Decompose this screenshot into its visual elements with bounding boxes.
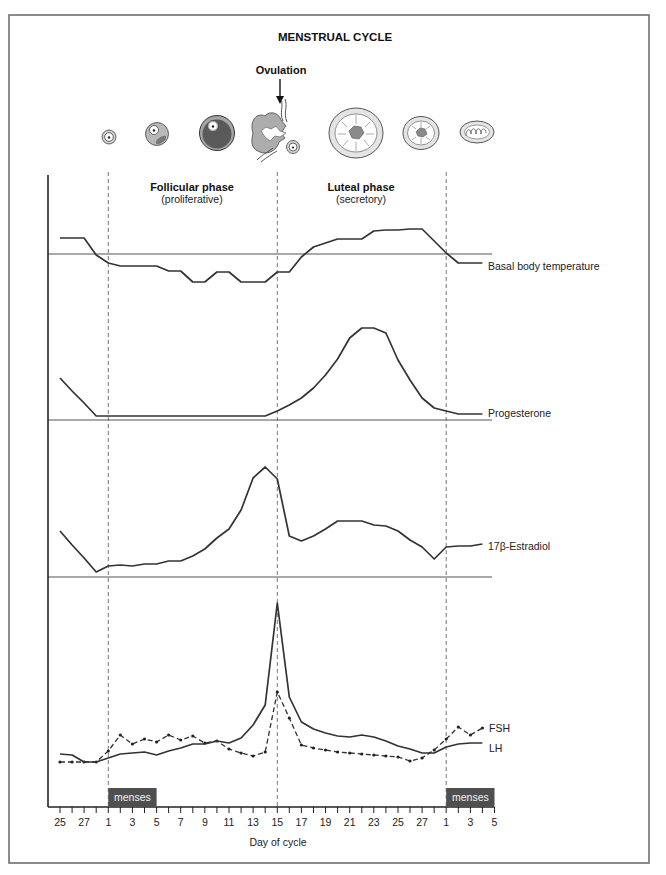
x-tick-label: 9 <box>202 816 208 828</box>
fsh-point <box>360 752 363 755</box>
fsh-point <box>227 747 230 750</box>
fsh-point <box>252 754 255 757</box>
fsh-point <box>324 748 327 751</box>
ovulation-label: Ovulation <box>256 64 307 76</box>
ruptured-follicle-oocyte-icon <box>252 99 300 162</box>
x-tick-label: 25 <box>54 816 66 828</box>
fsh-point <box>433 748 436 751</box>
regressing-corpus-luteum-icon <box>403 117 439 150</box>
x-tick-label: 25 <box>392 816 404 828</box>
follicular-phase-label: Follicular phase <box>150 181 234 193</box>
x-tick-label: 3 <box>129 816 135 828</box>
fsh-point <box>143 737 146 740</box>
e2-line <box>60 467 482 572</box>
fsh-point <box>71 760 74 763</box>
series-layer <box>58 229 484 764</box>
x-tick-label: 13 <box>247 816 259 828</box>
x-tick-label: 21 <box>344 816 356 828</box>
fsh-point <box>384 754 387 757</box>
x-tick-label: 15 <box>271 816 283 828</box>
fsh-label: FSH <box>489 722 510 734</box>
bbt-line <box>60 229 482 282</box>
estradiol-label: 17β-Estradiol <box>488 540 550 552</box>
x-tick-label: 27 <box>78 816 90 828</box>
fsh-point <box>240 751 243 754</box>
fsh-point <box>312 746 315 749</box>
fsh-point <box>300 743 303 746</box>
antral-follicle-icon <box>200 116 235 151</box>
menses-bar: menses <box>446 788 494 807</box>
luteal-phase-subtitle: (secretory) <box>336 193 386 205</box>
x-axis-ticks: 252713579111315171921232527135 <box>54 807 497 828</box>
x-tick-label: 19 <box>320 816 332 828</box>
fsh-point <box>421 756 424 759</box>
fsh-point <box>58 760 61 763</box>
corpus-albicans-icon <box>460 121 494 143</box>
fsh-point <box>348 751 351 754</box>
fsh-point <box>481 726 484 729</box>
x-tick-label: 3 <box>467 816 473 828</box>
lh-line <box>60 603 482 762</box>
x-tick-label: 5 <box>492 816 498 828</box>
prog-line <box>60 328 482 416</box>
fsh-point <box>408 759 411 762</box>
x-tick-label: 1 <box>105 816 111 828</box>
menses-bar: menses <box>108 788 156 807</box>
progesterone-label: Progesterone <box>488 407 551 419</box>
x-tick-label: 23 <box>368 816 380 828</box>
fsh-point <box>119 733 122 736</box>
x-tick-label: 27 <box>416 816 428 828</box>
fsh-point <box>276 690 279 693</box>
x-tick-label: 7 <box>178 816 184 828</box>
x-tick-label: 5 <box>154 816 160 828</box>
x-tick-label: 17 <box>296 816 308 828</box>
fsh-point <box>396 755 399 758</box>
primary-follicle-icon <box>146 123 169 146</box>
fsh-point <box>179 738 182 741</box>
corpus-luteum-icon <box>329 108 383 158</box>
menstrual-cycle-chart: MENSTRUAL CYCLE Ovulation <box>0 0 666 875</box>
fsh-point <box>167 733 170 736</box>
fsh-point <box>372 753 375 756</box>
fsh-point <box>469 733 472 736</box>
luteal-phase-label: Luteal phase <box>327 181 394 193</box>
fsh-point <box>131 742 134 745</box>
arrow-down-icon <box>276 79 284 104</box>
fsh-point <box>107 749 110 752</box>
fsh-point <box>445 737 448 740</box>
bbt-label: Basal body temperature <box>488 260 600 272</box>
x-tick-label: 11 <box>224 816 235 828</box>
fsh-point <box>155 740 158 743</box>
chart-title: MENSTRUAL CYCLE <box>278 31 392 43</box>
menses-label: menses <box>452 791 489 803</box>
fsh-point <box>288 716 291 719</box>
menses-label: menses <box>114 791 151 803</box>
fsh-point <box>336 750 339 753</box>
primordial-follicle-icon <box>102 130 116 144</box>
x-tick-label: 1 <box>443 816 449 828</box>
x-axis-label: Day of cycle <box>249 836 306 848</box>
lh-label: LH <box>489 742 502 754</box>
fsh-point <box>457 725 460 728</box>
follicular-phase-subtitle: (proliferative) <box>161 193 222 205</box>
fsh-point <box>191 734 194 737</box>
menses-bars: mensesmenses <box>108 788 494 807</box>
fsh-point <box>264 750 267 753</box>
